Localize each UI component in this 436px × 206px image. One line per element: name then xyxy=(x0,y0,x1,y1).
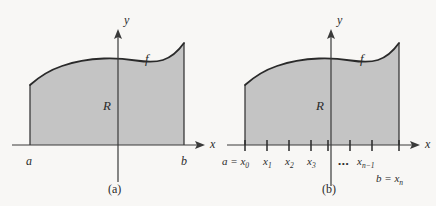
panel-b-left-endpoint-label: a = x0 xyxy=(222,156,249,167)
panel-b-region-label: R xyxy=(316,99,324,112)
panel-a-x-axis-label: x xyxy=(210,138,215,150)
panel-b-curve-label: f xyxy=(360,52,364,65)
panel-b-left-endpoint-sub: 0 xyxy=(245,161,249,170)
panel-b-x-axis-label: x xyxy=(425,138,430,150)
panel-b-tick-label-x2-sub: 2 xyxy=(290,161,294,170)
panel-b-right-endpoint-label: b = xn xyxy=(376,173,403,184)
panel-b-left-endpoint-text: a = x xyxy=(222,155,245,167)
panel-b-caption: (b) xyxy=(322,183,336,195)
panel-b-y-axis-label: y xyxy=(337,14,342,26)
panel-b-tick-label-x2: x2 xyxy=(285,156,294,167)
panel-b-ellipsis: ••• xyxy=(338,160,349,169)
panel-b-tick-label-xn-1-sub: n−1 xyxy=(362,161,375,170)
panel-b-tick-label-xn-1: xn−1 xyxy=(357,156,374,167)
panel-a-curve-label: f xyxy=(145,52,149,65)
panel-a-caption: (a) xyxy=(108,183,121,195)
panel-b-tick-label-x3-sub: 3 xyxy=(312,161,316,170)
panel-b-tick-label-x3: x3 xyxy=(307,156,316,167)
panel-a-y-axis-label: y xyxy=(124,14,129,26)
panel-a-left-endpoint-label: a xyxy=(26,155,32,167)
integral-region-figure: y x f R a b (a) y x f R a = x0 x1 x2 x3 … xyxy=(0,0,436,206)
panel-a-region-label: R xyxy=(103,99,111,112)
panel-b-tick-label-x1: x1 xyxy=(263,156,272,167)
panel-a-right-endpoint-label: b xyxy=(181,155,187,167)
panel-b-right-endpoint-text: b = x xyxy=(376,172,399,184)
figure-canvas xyxy=(0,0,436,206)
panel-b-right-endpoint-sub: n xyxy=(399,178,403,187)
panel-b-tick-label-x1-sub: 1 xyxy=(268,161,272,170)
